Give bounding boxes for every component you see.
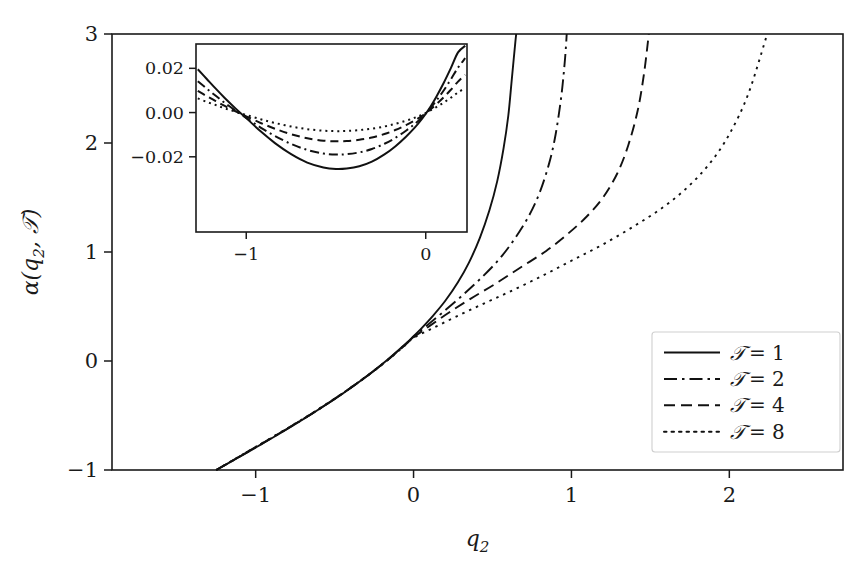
legend-label-1: 𝒯= 1 bbox=[730, 341, 785, 365]
inset-x-tick-label: −1 bbox=[233, 244, 259, 264]
inset-y-tick-label: 0.02 bbox=[145, 58, 184, 78]
figure-container: −1012 −10123 −10 0.020.00−0.02 𝒯= 1𝒯= 2𝒯… bbox=[0, 0, 868, 563]
inset-y-tick-label: 0.00 bbox=[145, 103, 184, 123]
x-tick-label: 1 bbox=[565, 483, 578, 507]
legend-label-3: 𝒯= 4 bbox=[730, 393, 785, 417]
legend-box bbox=[652, 332, 840, 452]
legend-label-4: 𝒯= 8 bbox=[730, 420, 785, 444]
inset-frame bbox=[196, 44, 467, 232]
x-tick-label: −1 bbox=[240, 483, 271, 507]
y-tick-label: 2 bbox=[85, 131, 98, 155]
x-tick-label: 2 bbox=[723, 483, 736, 507]
legend-label-2: 𝒯= 2 bbox=[730, 367, 785, 391]
y-tick-label: 0 bbox=[85, 349, 98, 373]
alpha-vs-q2-chart: −1012 −10123 −10 0.020.00−0.02 𝒯= 1𝒯= 2𝒯… bbox=[0, 0, 868, 563]
legend[interactable]: 𝒯= 1𝒯= 2𝒯= 4𝒯= 8 bbox=[652, 332, 840, 452]
inset-y-tick-label: −0.02 bbox=[130, 147, 184, 167]
y-tick-label: −1 bbox=[67, 458, 98, 482]
inset-x-tick-label: 0 bbox=[420, 244, 431, 264]
y-tick-label: 3 bbox=[85, 22, 98, 46]
y-tick-label: 1 bbox=[85, 240, 98, 264]
x-tick-label: 0 bbox=[407, 483, 420, 507]
